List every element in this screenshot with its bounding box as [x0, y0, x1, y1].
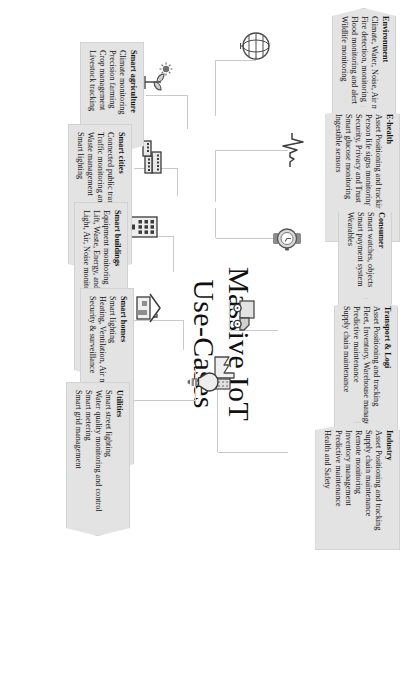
- smartwatch-icon: [272, 222, 302, 254]
- connector-environment-h: [215, 60, 216, 116]
- connector-consumer-h: [215, 208, 216, 238]
- list-item: Smart street lighting: [103, 390, 113, 528]
- truck-icon: [232, 300, 260, 334]
- diagram-canvas: Massive IoT Use-Cases: [0, 0, 406, 688]
- connector-homes-h: [183, 320, 184, 350]
- category-item-list: Smart street lighting Water quality moni…: [73, 390, 114, 528]
- list-item: Smart grid management: [73, 390, 83, 528]
- category-item-list: Asset Positioning and tracking Supply ch…: [322, 430, 383, 542]
- list-item: Predictive maintenance: [332, 430, 342, 542]
- list-item: Asset Positioning and tracking: [373, 430, 383, 542]
- connector-agriculture-h: [187, 95, 188, 129]
- category-box-utilities[interactable]: Utilities Smart street lighting Water qu…: [66, 382, 130, 536]
- connector-buildings-h: [173, 236, 174, 272]
- connector-ehealth-h: [215, 150, 216, 202]
- list-item: Smart metering: [83, 390, 93, 528]
- category-heading: Consumer: [376, 212, 386, 308]
- list-item: Health and Safety: [322, 430, 332, 542]
- connector-ehealth: [216, 150, 288, 151]
- building-icon: [128, 214, 158, 240]
- list-item: Remote monitoring: [353, 430, 363, 542]
- connector-transport-h: [229, 300, 230, 330]
- connector-utilities: [130, 400, 196, 401]
- category-heading: Utilities: [114, 390, 124, 528]
- plant-sun-icon: [144, 62, 174, 98]
- list-item: Water quality monitoring and control: [93, 390, 103, 528]
- connector-cities-h: [177, 168, 178, 196]
- list-item: Supply chain maintenance: [363, 430, 373, 542]
- connector-consumer: [216, 238, 276, 239]
- list-item: Inventory management: [343, 430, 353, 542]
- list-item: Smart watches, objects: [365, 212, 375, 308]
- page-title: Massive IoT Use-Cases: [187, 214, 256, 474]
- title-line-1: Massive IoT: [223, 267, 256, 421]
- heartbeat-icon: [282, 132, 308, 168]
- globe-icon: [240, 30, 272, 62]
- list-item: Smart payment system: [355, 212, 365, 308]
- category-item-list: Smart watches, objects Smart payment sys…: [345, 212, 376, 308]
- category-heading: Industry: [384, 430, 394, 542]
- connector-industry: [218, 452, 288, 453]
- lightbulb-icon: [186, 368, 220, 396]
- house-icon: [136, 292, 162, 324]
- list-item: Wearables: [345, 212, 355, 308]
- category-box-industry[interactable]: Industry Asset Positioning and tracking …: [315, 422, 400, 550]
